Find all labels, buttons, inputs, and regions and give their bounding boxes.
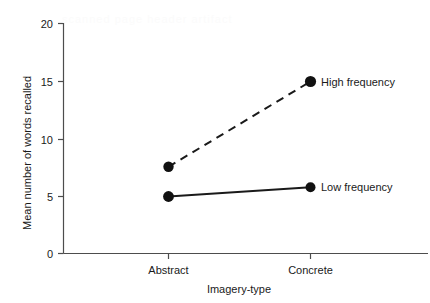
data-point-high-frequency-concrete — [305, 76, 316, 87]
x-axis-ticks — [169, 254, 311, 260]
y-tick-label-20: 20 — [41, 18, 53, 30]
series-line-low-frequency — [169, 187, 311, 196]
interaction-line-chart: scanned page header artifact 20 15 10 5 … — [0, 0, 430, 303]
y-tick-label-15: 15 — [41, 76, 53, 88]
x-axis-title: Imagery-type — [207, 283, 271, 295]
data-point-low-frequency-concrete — [306, 182, 316, 192]
chart-svg: 20 15 10 5 0 Mean number of words recall… — [0, 0, 430, 303]
y-axis-ticks — [58, 24, 64, 254]
y-tick-label-0: 0 — [47, 248, 53, 260]
series-low-frequency: Low frequency — [163, 181, 393, 202]
y-axis-title: Mean number of words recalled — [21, 76, 33, 230]
series-high-frequency: High frequency — [163, 76, 395, 173]
x-tick-label-abstract: Abstract — [148, 264, 188, 276]
x-tick-label-concrete: Concrete — [288, 264, 333, 276]
data-point-low-frequency-abstract — [163, 191, 174, 202]
series-label-low-frequency: Low frequency — [321, 181, 393, 193]
series-line-high-frequency — [169, 82, 311, 167]
data-point-high-frequency-abstract — [163, 162, 173, 172]
y-tick-label-10: 10 — [41, 134, 53, 146]
series-label-high-frequency: High frequency — [321, 76, 395, 88]
y-tick-label-5: 5 — [47, 191, 53, 203]
